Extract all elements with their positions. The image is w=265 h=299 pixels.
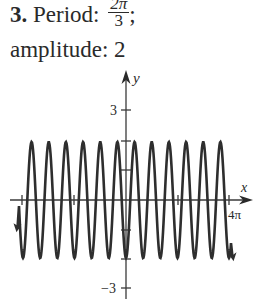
y-axis-label: y [131, 70, 140, 86]
graph: y 3 −3 x 4π [0, 0, 265, 299]
x-tick-label-4pi: 4π [228, 207, 242, 222]
y-axis [121, 70, 131, 299]
y-tick-label-3: 3 [110, 103, 117, 118]
y-tick-label-neg3: −3 [101, 281, 116, 296]
x-axis-label: x [240, 180, 248, 195]
